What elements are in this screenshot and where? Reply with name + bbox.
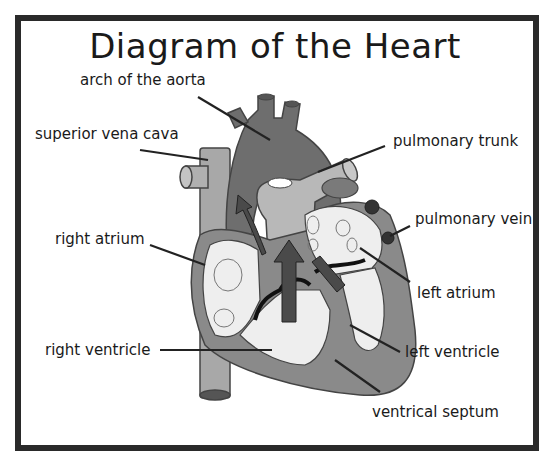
label-right-ventricle: right ventricle [45, 341, 150, 359]
label-pulmonary-vein: pulmonary vein [415, 210, 532, 228]
label-pulmonary-trunk: pulmonary trunk [393, 132, 518, 150]
label-arch-of-aorta: arch of the aorta [80, 71, 206, 89]
label-left-atrium: left atrium [417, 284, 496, 302]
label-ventrical-septum: ventrical septum [372, 403, 499, 421]
label-superior-vena-cava: superior vena cava [35, 125, 179, 143]
label-right-atrium: right atrium [55, 230, 145, 248]
label-left-ventricle: left ventricle [405, 343, 500, 361]
